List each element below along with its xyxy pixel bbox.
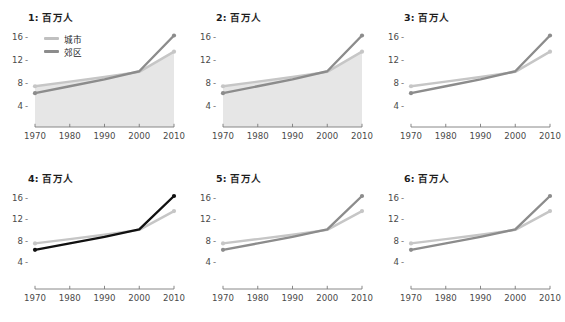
x-tick-label-2010: 2010 bbox=[351, 131, 373, 141]
x-tick-label-1970: 1970 bbox=[24, 293, 46, 303]
x-tick-label-2010: 2010 bbox=[163, 293, 185, 303]
data-point-urban bbox=[221, 84, 225, 88]
chart-panel-2: 2: 百万人16-12-8-4-19701980199020002010 bbox=[188, 0, 376, 161]
x-tick-label-1990: 1990 bbox=[282, 293, 304, 303]
data-point-suburb bbox=[221, 91, 225, 95]
x-tick-label-1990: 1990 bbox=[94, 293, 116, 303]
legend: 城市郊区 bbox=[44, 32, 82, 58]
x-axis bbox=[223, 286, 362, 289]
data-point-urban bbox=[33, 84, 37, 88]
x-axis-labels: 19701980199020002010 bbox=[188, 131, 376, 145]
x-tick-label-1980: 1980 bbox=[247, 293, 269, 303]
x-axis bbox=[411, 124, 550, 127]
x-tick-label-2010: 2010 bbox=[351, 293, 373, 303]
x-axis bbox=[35, 286, 174, 289]
x-axis-labels: 19701980199020002010 bbox=[188, 293, 376, 307]
x-tick-label-2010: 2010 bbox=[539, 293, 561, 303]
x-tick-label-1970: 1970 bbox=[212, 293, 234, 303]
data-point-urban bbox=[360, 50, 364, 54]
data-point-urban bbox=[409, 241, 413, 245]
x-tick-label-1990: 1990 bbox=[470, 131, 492, 141]
x-tick-label-1970: 1970 bbox=[212, 131, 234, 141]
x-tick-label-1980: 1980 bbox=[59, 293, 81, 303]
x-tick-label-1980: 1980 bbox=[435, 131, 457, 141]
x-axis-labels: 19701980199020002010 bbox=[0, 131, 188, 145]
data-point-suburb bbox=[548, 33, 552, 37]
data-point-urban bbox=[172, 209, 176, 213]
x-axis-labels: 19701980199020002010 bbox=[0, 293, 188, 307]
data-point-urban bbox=[548, 209, 552, 213]
data-point-suburb bbox=[221, 248, 225, 252]
data-point-suburb bbox=[409, 91, 413, 95]
x-tick-label-1990: 1990 bbox=[282, 131, 304, 141]
data-point-urban bbox=[33, 241, 37, 245]
data-point-urban bbox=[409, 84, 413, 88]
data-point-suburb bbox=[360, 33, 364, 37]
x-tick-label-1980: 1980 bbox=[435, 293, 457, 303]
x-tick-label-2010: 2010 bbox=[539, 131, 561, 141]
chart-panel-5: 5: 百万人16-12-8-4-19701980199020002010 bbox=[188, 161, 376, 322]
x-tick-label-2000: 2000 bbox=[504, 293, 526, 303]
legend-label: 郊区 bbox=[64, 46, 82, 58]
chart-panel-3: 3: 百万人16-12-8-4-19701980199020002010 bbox=[376, 0, 564, 161]
x-tick-label-1970: 1970 bbox=[400, 293, 422, 303]
x-tick-label-1990: 1990 bbox=[94, 131, 116, 141]
legend-item-urban[interactable]: 城市 bbox=[44, 32, 82, 45]
x-tick-label-1970: 1970 bbox=[400, 131, 422, 141]
data-point-urban bbox=[360, 209, 364, 213]
x-tick-label-1970: 1970 bbox=[24, 131, 46, 141]
x-tick-label-2000: 2000 bbox=[504, 131, 526, 141]
data-point-suburb bbox=[409, 248, 413, 252]
x-axis-labels: 19701980199020002010 bbox=[376, 131, 564, 145]
data-point-urban bbox=[221, 241, 225, 245]
x-tick-label-2000: 2000 bbox=[128, 293, 150, 303]
data-point-urban bbox=[548, 50, 552, 54]
data-point-urban bbox=[172, 50, 176, 54]
small-multiples-figure: 1: 百万人16-12-8-4-19701980199020002010城市郊区… bbox=[0, 0, 565, 322]
legend-item-suburb[interactable]: 郊区 bbox=[44, 45, 82, 58]
chart-panel-6: 6: 百万人16-12-8-4-19701980199020002010 bbox=[376, 161, 564, 322]
legend-label: 城市 bbox=[64, 33, 82, 45]
x-axis-labels: 19701980199020002010 bbox=[376, 293, 564, 307]
data-point-suburb bbox=[360, 194, 364, 198]
data-point-suburb bbox=[172, 33, 176, 37]
x-axis bbox=[411, 286, 550, 289]
x-tick-label-2010: 2010 bbox=[163, 131, 185, 141]
legend-swatch-urban bbox=[44, 37, 59, 40]
x-tick-label-2000: 2000 bbox=[316, 131, 338, 141]
x-tick-label-1980: 1980 bbox=[247, 131, 269, 141]
chart-panel-1: 1: 百万人16-12-8-4-19701980199020002010城市郊区 bbox=[0, 0, 188, 161]
x-tick-label-2000: 2000 bbox=[316, 293, 338, 303]
legend-swatch-suburb bbox=[44, 50, 59, 53]
chart-panel-4: 4: 百万人16-12-8-4-19701980199020002010 bbox=[0, 161, 188, 322]
data-point-suburb bbox=[33, 248, 37, 252]
data-point-suburb bbox=[33, 91, 37, 95]
x-tick-label-1990: 1990 bbox=[470, 293, 492, 303]
data-point-suburb bbox=[172, 194, 176, 198]
data-point-suburb bbox=[548, 194, 552, 198]
x-tick-label-1980: 1980 bbox=[59, 131, 81, 141]
x-tick-label-2000: 2000 bbox=[128, 131, 150, 141]
